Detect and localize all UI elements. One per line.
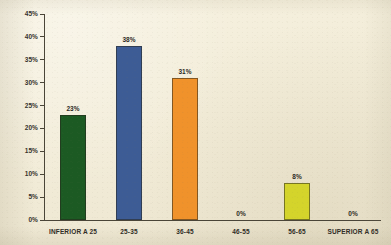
- bar-group[interactable]: 8%56-65: [269, 14, 325, 220]
- x-axis-category-label: 46-55: [232, 227, 249, 236]
- bar[interactable]: [60, 115, 86, 220]
- bar[interactable]: [172, 78, 198, 220]
- y-axis-tick-mark: [40, 220, 44, 221]
- y-axis-tick-mark: [40, 128, 44, 129]
- bar-chart: 0%5%10%15%20%25%30%35%40%45% 23%INFERIOR…: [0, 0, 391, 245]
- y-axis-tick-mark: [40, 59, 44, 60]
- x-axis-category-label: 36-45: [176, 227, 193, 236]
- y-axis-tick-mark: [40, 82, 44, 83]
- y-axis-tick-label: 20%: [25, 123, 38, 132]
- y-axis-tick-label: 0%: [28, 215, 38, 224]
- bar[interactable]: [284, 183, 310, 220]
- y-axis-tick-label: 45%: [25, 9, 38, 18]
- y-axis-tick-label: 30%: [25, 78, 38, 87]
- bar-group[interactable]: 23%INFERIOR A 25: [45, 14, 101, 220]
- bar-group[interactable]: 31%36-45: [157, 14, 213, 220]
- plot-area: 0%5%10%15%20%25%30%35%40%45% 23%INFERIOR…: [44, 14, 381, 221]
- y-axis-tick-label: 25%: [25, 101, 38, 110]
- bar-value-label: 8%: [292, 173, 301, 181]
- bar[interactable]: [116, 46, 142, 220]
- y-axis-tick-mark: [40, 197, 44, 198]
- bar-value-label: 0%: [348, 210, 357, 218]
- x-axis-category-label: 56-65: [288, 227, 305, 236]
- bar-value-label: 38%: [122, 36, 135, 44]
- y-axis-tick-mark: [40, 14, 44, 15]
- bar-value-label: 31%: [178, 68, 191, 76]
- y-axis-tick-label: 5%: [28, 192, 38, 201]
- y-axis-tick-mark: [40, 36, 44, 37]
- x-axis-category-label: SUPERIOR A 65: [328, 227, 379, 236]
- x-axis-category-label: INFERIOR A 25: [49, 227, 97, 236]
- bar-value-label: 0%: [236, 210, 245, 218]
- y-axis-tick-label: 10%: [25, 169, 38, 178]
- x-axis-line: [44, 220, 381, 221]
- bar-group[interactable]: 38%25-35: [101, 14, 157, 220]
- bar-group[interactable]: 0%SUPERIOR A 65: [325, 14, 381, 220]
- y-axis-tick-mark: [40, 151, 44, 152]
- y-axis-tick-label: 15%: [25, 146, 38, 155]
- y-axis-tick-label: 40%: [25, 32, 38, 41]
- y-axis-tick-label: 35%: [25, 55, 38, 64]
- bar-value-label: 23%: [66, 105, 79, 113]
- x-axis-category-label: 25-35: [120, 227, 137, 236]
- bar-group[interactable]: 0%46-55: [213, 14, 269, 220]
- y-axis-tick-mark: [40, 174, 44, 175]
- y-axis-tick-mark: [40, 105, 44, 106]
- bar-series: 23%INFERIOR A 2538%25-3531%36-450%46-558…: [45, 14, 381, 220]
